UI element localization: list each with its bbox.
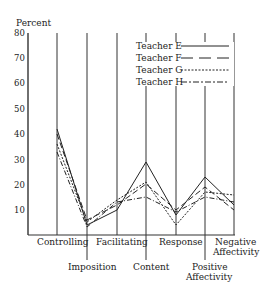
y-tick-80: 80 <box>14 28 25 38</box>
category-imposition: Imposition <box>68 262 117 272</box>
category-negative-1: Negative <box>215 237 256 247</box>
y-axis-ticks: 80 70 60 50 40 30 20 10 <box>14 28 25 215</box>
category-positive-2: Affectivity <box>185 272 233 282</box>
chart: Percent 80 70 60 50 40 30 20 10 Teacher … <box>0 0 267 295</box>
y-axis-label: Percent <box>16 18 51 28</box>
legend-label-teacher-f: Teacher F <box>136 53 182 63</box>
category-labels: Controlling Imposition Facilitating Cont… <box>37 237 260 282</box>
category-positive-1: Positive <box>192 262 228 272</box>
category-controlling: Controlling <box>37 237 89 247</box>
legend-label-teacher-e: Teacher E <box>136 41 182 51</box>
legend-label-teacher-g: Teacher G <box>136 65 183 75</box>
y-tick-40: 40 <box>14 129 25 139</box>
y-tick-10: 10 <box>14 205 25 215</box>
legend-label-teacher-h: Teacher H <box>136 77 183 87</box>
category-negative-2: Affectivity <box>212 247 260 257</box>
category-facilitating: Facilitating <box>96 237 148 247</box>
category-response: Response <box>159 237 203 247</box>
y-tick-60: 60 <box>14 78 25 88</box>
y-tick-70: 70 <box>14 53 25 63</box>
y-tick-50: 50 <box>14 104 25 114</box>
y-tick-30: 30 <box>14 155 25 165</box>
legend: Teacher E Teacher F Teacher G Teacher H <box>134 41 234 87</box>
category-content: Content <box>133 262 170 272</box>
y-tick-20: 20 <box>14 180 25 190</box>
